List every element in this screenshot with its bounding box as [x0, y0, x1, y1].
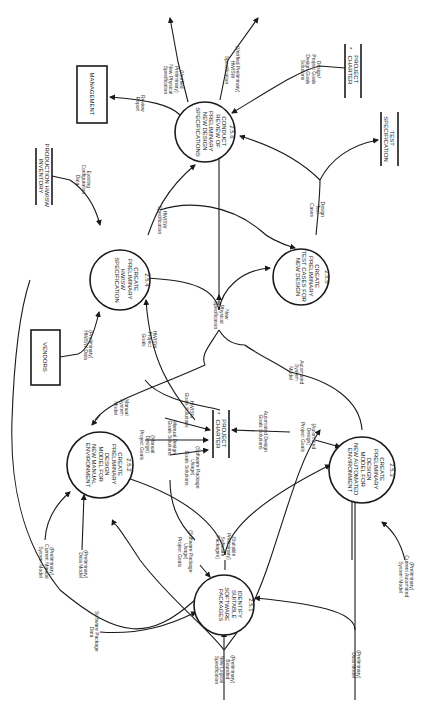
flow-design-goals-solutions — [232, 66, 345, 113]
label-sw-usage-solutions: (Software Package Usage) Goals Solutions — [184, 446, 201, 490]
label-hwsw-data: (Preliminary) HW/SW Data — [83, 330, 95, 360]
process-2-5-6[interactable]: CONDUCT REVIEW OF PRELIMINARY NEW DESIGN… — [175, 102, 235, 162]
svg-text:IDENTIFY SUITABLE: IDENTIFY SUITABLE SOFTWARE PACKAGES — [218, 587, 244, 622]
label-design-goals-solutions: Design/ Project Goals Design Goals Solut… — [300, 54, 323, 85]
process-2-5-4[interactable]: CREATE PRELIMINARY HW/SW SPECIFICATION 2… — [90, 250, 150, 310]
svg-text:VENDORS: VENDORS — [42, 342, 48, 372]
label-hwsw-spec: HW/SW Specification — [157, 206, 169, 235]
label-sw-package-data: Software Package Data — [89, 611, 101, 653]
label-data-model-left: (Preliminary) Data Model — [78, 550, 90, 580]
process-number: 2.5.1 — [248, 598, 254, 612]
external-vendors[interactable]: VENDORS — [31, 330, 60, 385]
label-existing-config: Existing Configuration Data — [75, 164, 92, 195]
label-new-physical-spec: New Physical Specification — [213, 301, 230, 330]
process-2-5-1[interactable]: IDENTIFY SUITABLE SOFTWARE PACKAGES 2.5.… — [194, 575, 254, 635]
label-verified-physical: (Verified Preliminary) New Physical Spec… — [163, 64, 186, 95]
svg-text:TEST SPECIFICATION: TEST SPECIFICATION — [383, 116, 396, 162]
store-project-charter-right[interactable]: PROJECT CHARTER * — [345, 44, 361, 98]
label-review-report: Review Report — [135, 95, 147, 113]
flow-datamodel-to-251 — [255, 598, 355, 700]
label-manual-design-goals: (Manual Design) Project Goals — [139, 430, 156, 461]
label-manual-system-model: Manual System Model — [113, 399, 130, 417]
flow-suitable-packages — [225, 465, 330, 555]
flow-new-physical-to-255 — [219, 268, 270, 310]
flow-new-physical-to-254 — [145, 278, 219, 310]
process-2-5-3[interactable]: CREATE PRELIMINARY DESIGN MODEL FOR NEW … — [329, 437, 395, 503]
process-number: 2.5.2 — [126, 458, 132, 472]
data-flow-diagram: IDENTIFY SUITABLE SOFTWARE PACKAGES 2.5.… — [0, 0, 429, 711]
process-number: 2.5.6 — [229, 125, 235, 139]
svg-text:PROJECT CHARTER: PROJECT CHARTER — [215, 419, 228, 449]
store-project-charter-center[interactable]: PROJECT CHARTER * — [213, 410, 229, 458]
flow-current-manual — [45, 492, 70, 540]
svg-text:PRODUCTION HW/SW INVENTO: PRODUCTION HW/SW INVENTORY — [38, 144, 51, 209]
svg-text:CREATE PRELIMINARY: CREATE PRELIMINARY DESIGN MODEL FOR NEW … — [85, 443, 124, 488]
label-data-model-bottom: (Preliminary) Data Model — [351, 650, 363, 680]
label-auto-design-goals: (Automated Design) Project Goals — [300, 422, 317, 453]
svg-text:PROJECT CHARTER: PROJECT CHARTER — [347, 55, 360, 85]
process-number: 2.5.3 — [389, 463, 395, 477]
label-hwsw-goals-solutions: HW/SW Goals Solutions — [184, 392, 196, 428]
label-auto-system-model: Automated System Model — [288, 360, 305, 386]
process-2-5-5[interactable]: CREATE PRELIMINARY TEST CASES FOR NEW DE… — [273, 249, 330, 305]
external-management[interactable]: MANAGEMENT — [77, 66, 107, 123]
label-suitable-packages: (Suitable Preliminary) Software Packages… — [215, 533, 238, 561]
store-production-inventory[interactable]: PRODUCTION HW/SW INVENTORY — [36, 144, 52, 209]
process-number: 2.5.4 — [144, 273, 150, 287]
label-current-automated: (Preliminary) Current Automated System M… — [398, 555, 415, 598]
store-asterisk: * — [347, 47, 353, 50]
svg-text:MANAGEMENT: MANAGEMENT — [89, 72, 95, 115]
label-manual-design-solutions: Manual Design Goals Solutions — [167, 420, 179, 456]
store-test-specification[interactable]: TEST SPECIFICATION — [381, 112, 398, 166]
label-bounded-logical: (Preliminary) Bounded New Logical Specif… — [214, 655, 237, 685]
flow-current-automated — [382, 522, 405, 560]
flow-auto-design-goals — [315, 440, 340, 447]
label-hwsw-project-goals: HW/SW Project Goals — [141, 330, 158, 349]
flow-hwsw-spec — [148, 165, 195, 235]
store-asterisk: * — [215, 412, 221, 415]
process-number: 2.5.5 — [324, 270, 330, 284]
flow-datamodel-left — [82, 495, 84, 550]
label-sw-usage-goals: (Software Package Usage) Project Goals — [177, 530, 194, 574]
label-auto-design-solutions: Automated Design Goals Solutions — [258, 411, 270, 454]
process-2-5-2[interactable]: CREATE PRELIMINARY DESIGN MODEL FOR NEW … — [67, 432, 133, 498]
label-current-manual: (Preliminary) Current Manual System Mode… — [38, 544, 55, 580]
